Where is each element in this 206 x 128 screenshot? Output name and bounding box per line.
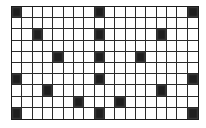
empty-cell — [95, 63, 105, 74]
empty-cell — [74, 108, 84, 119]
empty-cell — [167, 29, 177, 40]
empty-cell — [74, 85, 84, 96]
empty-cell — [157, 63, 167, 74]
filled-cell — [115, 97, 125, 108]
empty-cell — [126, 63, 136, 74]
empty-cell — [177, 41, 187, 52]
empty-cell — [64, 7, 74, 18]
empty-cell — [22, 108, 32, 119]
empty-cell — [33, 52, 43, 63]
empty-cell — [136, 18, 146, 29]
empty-cell — [146, 85, 156, 96]
empty-cell — [126, 18, 136, 29]
empty-cell — [53, 63, 63, 74]
filled-cell — [188, 7, 198, 18]
filled-cell — [95, 29, 105, 40]
empty-cell — [12, 18, 22, 29]
empty-cell — [177, 97, 187, 108]
empty-cell — [53, 108, 63, 119]
empty-cell — [84, 7, 94, 18]
empty-cell — [64, 18, 74, 29]
empty-cell — [167, 7, 177, 18]
empty-cell — [126, 52, 136, 63]
empty-cell — [53, 74, 63, 85]
empty-cell — [105, 29, 115, 40]
empty-cell — [95, 85, 105, 96]
empty-cell — [157, 7, 167, 18]
empty-cell — [95, 41, 105, 52]
empty-cell — [33, 18, 43, 29]
empty-cell — [22, 85, 32, 96]
empty-cell — [188, 41, 198, 52]
empty-cell — [84, 18, 94, 29]
empty-cell — [157, 74, 167, 85]
filled-cell — [157, 85, 167, 96]
empty-cell — [22, 63, 32, 74]
filled-cell — [95, 52, 105, 63]
empty-cell — [105, 63, 115, 74]
empty-cell — [64, 85, 74, 96]
empty-cell — [115, 85, 125, 96]
empty-cell — [136, 63, 146, 74]
empty-cell — [64, 97, 74, 108]
empty-cell — [64, 52, 74, 63]
filled-cell — [43, 85, 53, 96]
empty-cell — [136, 29, 146, 40]
empty-cell — [136, 108, 146, 119]
empty-cell — [146, 63, 156, 74]
empty-cell — [84, 85, 94, 96]
empty-cell — [22, 7, 32, 18]
empty-cell — [12, 52, 22, 63]
empty-cell — [177, 63, 187, 74]
empty-cell — [136, 74, 146, 85]
empty-cell — [177, 85, 187, 96]
empty-cell — [105, 41, 115, 52]
empty-cell — [126, 74, 136, 85]
empty-cell — [105, 108, 115, 119]
empty-cell — [95, 97, 105, 108]
empty-cell — [74, 52, 84, 63]
empty-cell — [33, 7, 43, 18]
filled-cell — [188, 108, 198, 119]
empty-cell — [167, 18, 177, 29]
cell-grid — [11, 6, 199, 120]
empty-cell — [64, 29, 74, 40]
empty-cell — [84, 63, 94, 74]
empty-cell — [43, 63, 53, 74]
empty-cell — [126, 7, 136, 18]
empty-cell — [146, 7, 156, 18]
empty-cell — [84, 108, 94, 119]
empty-cell — [157, 18, 167, 29]
empty-cell — [177, 108, 187, 119]
empty-cell — [146, 52, 156, 63]
empty-cell — [115, 29, 125, 40]
empty-cell — [33, 41, 43, 52]
empty-cell — [105, 97, 115, 108]
empty-cell — [188, 97, 198, 108]
empty-cell — [167, 41, 177, 52]
empty-cell — [115, 41, 125, 52]
empty-cell — [136, 97, 146, 108]
empty-cell — [84, 97, 94, 108]
empty-cell — [74, 41, 84, 52]
empty-cell — [84, 74, 94, 85]
empty-cell — [115, 63, 125, 74]
filled-cell — [95, 74, 105, 85]
empty-cell — [167, 74, 177, 85]
empty-cell — [115, 52, 125, 63]
filled-cell — [53, 52, 63, 63]
empty-cell — [43, 97, 53, 108]
empty-cell — [188, 29, 198, 40]
empty-cell — [64, 74, 74, 85]
empty-cell — [84, 41, 94, 52]
empty-cell — [74, 29, 84, 40]
empty-cell — [167, 97, 177, 108]
filled-cell — [95, 108, 105, 119]
empty-cell — [105, 18, 115, 29]
empty-cell — [64, 41, 74, 52]
empty-cell — [43, 29, 53, 40]
empty-cell — [115, 7, 125, 18]
empty-cell — [126, 29, 136, 40]
empty-cell — [12, 41, 22, 52]
empty-cell — [53, 7, 63, 18]
